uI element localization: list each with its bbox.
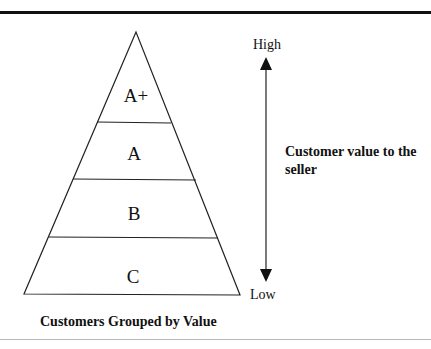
tier-divider-2 bbox=[73, 179, 196, 180]
tier-divider-3 bbox=[49, 237, 218, 238]
axis-low-label: Low bbox=[250, 287, 276, 303]
tier-label-a: A bbox=[104, 143, 164, 165]
axis-high-label: High bbox=[253, 37, 281, 53]
tier-label-c: C bbox=[103, 266, 163, 288]
axis-title: Customer value to the seller bbox=[285, 143, 425, 179]
tier-label-b: B bbox=[104, 203, 164, 225]
arrow-down-icon bbox=[260, 269, 272, 282]
tier-divider-1 bbox=[97, 122, 171, 123]
arrow-up-icon bbox=[260, 57, 272, 70]
tier-label-a-plus: A+ bbox=[106, 85, 166, 107]
bottom-divider bbox=[0, 339, 431, 340]
diagram-caption: Customers Grouped by Value bbox=[40, 314, 217, 330]
